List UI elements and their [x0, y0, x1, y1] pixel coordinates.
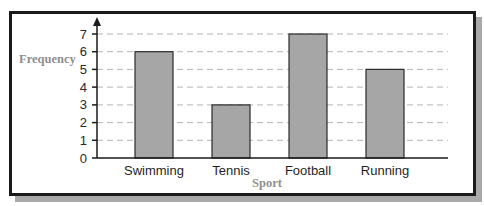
y-tick-label: 2 [80, 115, 87, 130]
y-tick-labels: 0 1 2 3 4 5 6 7 [80, 27, 87, 166]
category-label-tennis: Tennis [212, 163, 250, 178]
y-tick-label: 1 [80, 133, 87, 148]
y-axis-arrow-icon [93, 17, 101, 26]
bars [135, 34, 404, 158]
y-tick-label: 4 [80, 80, 87, 95]
bar-chart: 0 1 2 3 4 5 6 7 Swimming Tennis Football… [0, 0, 484, 206]
y-tick-label: 6 [80, 44, 87, 59]
y-tick-label: 7 [80, 27, 87, 42]
y-tick-label: 0 [80, 151, 87, 166]
category-label-football: Football [285, 163, 331, 178]
y-tick-label: 3 [80, 97, 87, 112]
bar-running [366, 69, 404, 158]
bar-swimming [135, 52, 173, 158]
x-axis-title: Sport [252, 176, 283, 190]
category-label-running: Running [361, 163, 409, 178]
y-axis-title: Frequency [19, 52, 76, 66]
bar-tennis [212, 105, 250, 158]
y-tick-label: 5 [80, 62, 87, 77]
category-label-swimming: Swimming [124, 163, 184, 178]
bar-football [289, 34, 327, 158]
